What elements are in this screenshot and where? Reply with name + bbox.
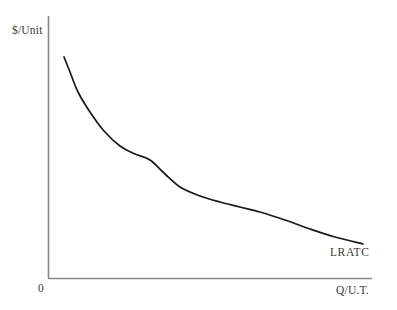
- origin-label: 0: [38, 283, 44, 295]
- axes-group: [48, 16, 372, 279]
- lratc-chart-figure: $/Unit Q/U.T. 0 LRATC: [0, 0, 397, 310]
- chart-plot-area: [0, 0, 397, 310]
- lratc-curve-label: LRATC: [330, 247, 369, 259]
- x-axis-label: Q/U.T.: [336, 285, 369, 297]
- series-group: [64, 57, 363, 244]
- series-line-lratc: [64, 57, 363, 244]
- y-axis-label: $/Unit: [12, 25, 43, 37]
